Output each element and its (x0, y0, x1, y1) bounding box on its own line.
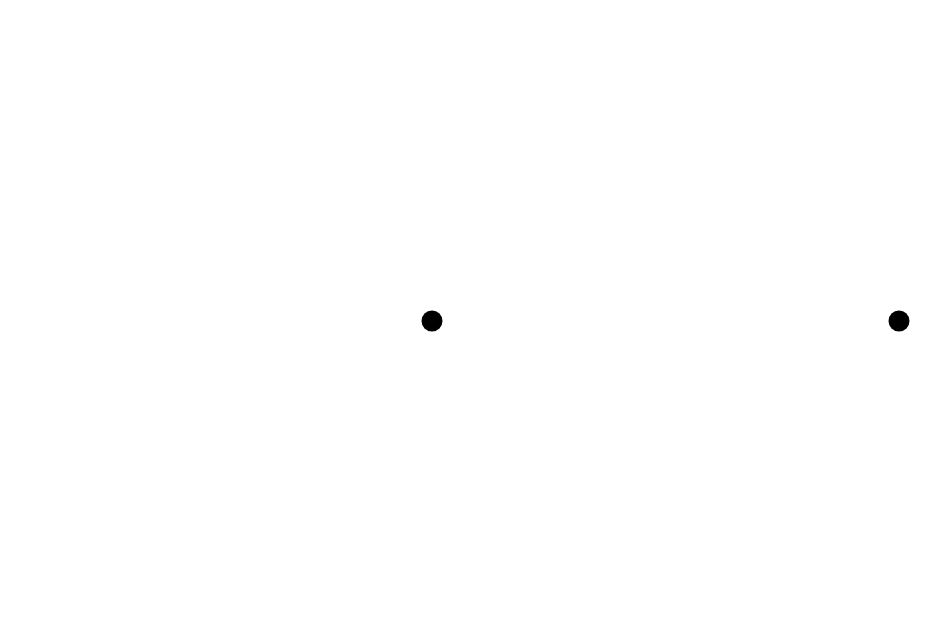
blank-canvas (0, 0, 938, 636)
dot-marker-left (422, 311, 443, 332)
dot-marker-right (889, 311, 910, 332)
